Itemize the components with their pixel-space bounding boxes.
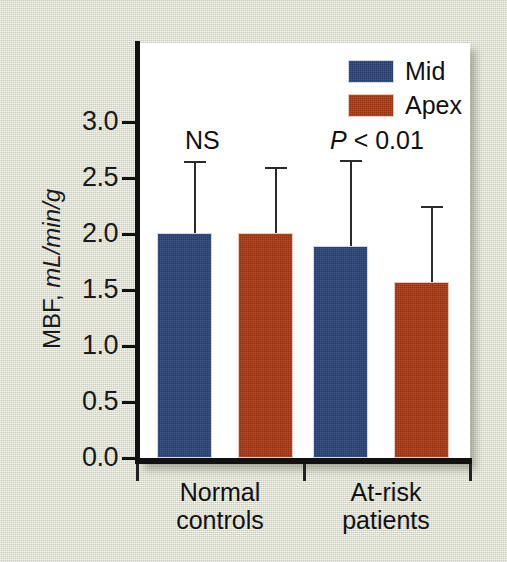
bar-at-risk-patients-mid[interactable]	[313, 246, 368, 458]
error-bar-stem-atrisk-apex	[431, 206, 433, 282]
y-tick-label-0-0: 0.0	[56, 442, 118, 473]
x-group-label-normal-controls: Normal controls	[130, 478, 310, 534]
error-bar-stem-normal-mid	[194, 161, 196, 233]
y-axis-title-unit: mL/min/g	[38, 189, 65, 288]
y-axis-title-plain: MBF,	[38, 288, 65, 349]
x-group-label-normal-controls-line2: controls	[130, 506, 310, 534]
y-tick-0-5	[122, 401, 136, 404]
y-tick-0-0	[122, 457, 136, 460]
plot-area: Mid Apex NS P < 0.01	[138, 43, 470, 463]
y-axis-line	[135, 41, 140, 461]
y-tick-1-5	[122, 289, 136, 292]
bar-normal-controls-apex[interactable]	[238, 233, 293, 458]
x-group-label-at-risk-patients-line1: At-risk	[296, 478, 476, 506]
x-group-label-normal-controls-line1: Normal	[130, 478, 310, 506]
y-tick-3-0	[122, 121, 136, 124]
y-tick-label-0-5: 0.5	[56, 386, 118, 417]
bar-at-risk-patients-apex[interactable]	[394, 282, 449, 458]
error-bar-stem-normal-apex	[275, 167, 277, 233]
y-tick-1-0	[122, 345, 136, 348]
error-bar-cap-normal-apex	[265, 167, 287, 169]
error-bar-stem-atrisk-mid	[350, 160, 352, 246]
y-tick-label-3-0: 3.0	[56, 106, 118, 137]
error-bar-cap-atrisk-apex	[421, 206, 443, 208]
x-group-label-at-risk-patients: At-risk patients	[296, 478, 476, 534]
error-bar-cap-atrisk-mid	[340, 160, 362, 162]
figure-root: Mid Apex NS P < 0.01	[0, 0, 507, 562]
y-tick-2-0	[122, 233, 136, 236]
y-axis-title: MBF, mL/min/g	[38, 159, 66, 379]
bars-layer	[138, 43, 470, 463]
y-tick-2-5	[122, 177, 136, 180]
x-group-label-at-risk-patients-line2: patients	[296, 506, 476, 534]
error-bar-cap-normal-mid	[184, 161, 206, 163]
bar-normal-controls-mid[interactable]	[157, 233, 212, 458]
